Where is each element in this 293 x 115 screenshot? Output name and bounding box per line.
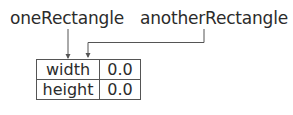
field-name: width [37,60,100,80]
field-row-width: width 0.0 [37,60,141,80]
rectangle-object: width 0.0 height 0.0 [36,59,141,100]
field-name: height [37,80,100,100]
field-value: 0.0 [100,60,141,80]
arrow-oneRectangle [66,29,71,59]
arrow-anotherRectangle [86,29,205,58]
field-value: 0.0 [100,80,141,100]
field-row-height: height 0.0 [37,80,141,100]
